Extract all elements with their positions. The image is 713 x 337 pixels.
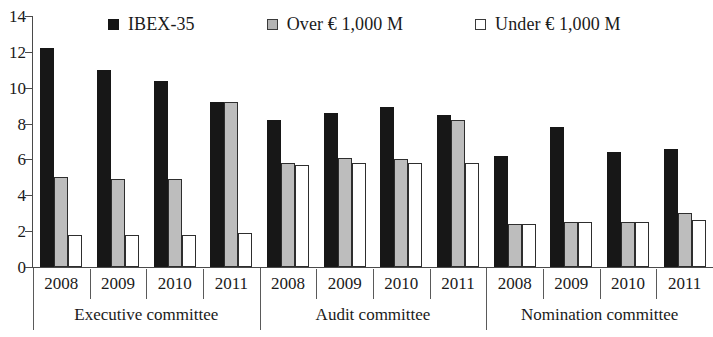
bar-ibex-35 bbox=[267, 120, 281, 267]
bar-under-1000m bbox=[125, 235, 139, 267]
y-tick-mark bbox=[25, 231, 33, 232]
year-separator bbox=[656, 269, 657, 299]
y-tick-mark bbox=[25, 124, 33, 125]
bar-group bbox=[316, 16, 373, 267]
y-tick-mark bbox=[25, 52, 33, 53]
bar-over-1000m bbox=[621, 222, 635, 267]
y-tick-mark bbox=[25, 16, 33, 17]
x-tick-label-year: 2010 bbox=[600, 268, 657, 300]
bar-under-1000m bbox=[295, 165, 309, 267]
y-tick-mark bbox=[25, 195, 33, 196]
bar-group bbox=[373, 16, 430, 267]
year-separator bbox=[316, 269, 317, 299]
y-tick-label: 14 bbox=[9, 8, 26, 25]
bar-group bbox=[146, 16, 203, 267]
bar-ibex-35 bbox=[210, 102, 224, 267]
bar-group bbox=[90, 16, 147, 267]
bar-under-1000m bbox=[465, 163, 479, 267]
plot-area: 02468101214 2008200920102011200820092010… bbox=[0, 0, 713, 337]
x-tick-label-year: 2008 bbox=[33, 268, 90, 300]
bar-ibex-35 bbox=[550, 127, 564, 267]
bar-group bbox=[33, 16, 90, 267]
bar-over-1000m bbox=[168, 179, 182, 267]
y-tick-label: 12 bbox=[9, 43, 26, 60]
bar-under-1000m bbox=[635, 222, 649, 267]
bar-over-1000m bbox=[564, 222, 578, 267]
y-tick-mark bbox=[25, 159, 33, 160]
year-separator bbox=[430, 269, 431, 299]
bar-group bbox=[600, 16, 657, 267]
x-tick-label-year: 2011 bbox=[203, 268, 260, 300]
bar-under-1000m bbox=[578, 222, 592, 267]
group-separator bbox=[33, 268, 34, 330]
x-axis-year-labels: 2008200920102011200820092010201120082009… bbox=[33, 268, 713, 300]
x-axis-group-label: Audit committee bbox=[260, 300, 487, 330]
bar-group bbox=[656, 16, 713, 267]
bar-over-1000m bbox=[451, 120, 465, 267]
y-tick-label: 10 bbox=[9, 79, 26, 96]
group-separator bbox=[486, 268, 487, 330]
year-separator bbox=[373, 269, 374, 299]
y-tick-mark bbox=[25, 88, 33, 89]
bar-ibex-35 bbox=[154, 81, 168, 267]
bar-group bbox=[203, 16, 260, 267]
bar-ibex-35 bbox=[607, 152, 621, 267]
bar-ibex-35 bbox=[380, 107, 394, 267]
x-tick-label-year: 2010 bbox=[146, 268, 203, 300]
bar-over-1000m bbox=[678, 213, 692, 267]
bar-over-1000m bbox=[281, 163, 295, 267]
x-tick-label-year: 2008 bbox=[260, 268, 317, 300]
bar-under-1000m bbox=[352, 163, 366, 267]
bar-group bbox=[486, 16, 543, 267]
x-tick-label-year: 2008 bbox=[486, 268, 543, 300]
bar-group bbox=[430, 16, 487, 267]
y-tick-mark bbox=[25, 267, 33, 268]
bar-under-1000m bbox=[522, 224, 536, 267]
x-axis-group-label: Nomination committee bbox=[486, 300, 713, 330]
x-tick-label-year: 2011 bbox=[430, 268, 487, 300]
x-axis-group-label: Executive committee bbox=[33, 300, 260, 330]
bar-ibex-35 bbox=[324, 113, 338, 267]
x-tick-label-year: 2009 bbox=[316, 268, 373, 300]
bar-under-1000m bbox=[408, 163, 422, 267]
bar-under-1000m bbox=[238, 233, 252, 267]
x-tick-label-year: 2009 bbox=[543, 268, 600, 300]
x-tick-label-year: 2009 bbox=[90, 268, 147, 300]
bar-ibex-35 bbox=[97, 70, 111, 267]
bar-over-1000m bbox=[338, 158, 352, 267]
bar-under-1000m bbox=[182, 235, 196, 267]
x-tick-label-year: 2011 bbox=[656, 268, 713, 300]
x-axis-group-labels: Executive committeeAudit committeeNomina… bbox=[33, 300, 713, 337]
year-separator bbox=[90, 269, 91, 299]
x-tick-label-year: 2010 bbox=[373, 268, 430, 300]
year-separator bbox=[203, 269, 204, 299]
bar-group bbox=[543, 16, 600, 267]
bar-ibex-35 bbox=[664, 149, 678, 267]
bars-container bbox=[33, 16, 713, 267]
y-axis-labels: 02468101214 bbox=[0, 16, 26, 267]
bar-over-1000m bbox=[394, 159, 408, 267]
bar-over-1000m bbox=[224, 102, 238, 267]
bar-group bbox=[260, 16, 317, 267]
bar-chart: IBEX-35 Over € 1,000 M Under € 1,000 M 0… bbox=[0, 0, 713, 337]
bar-over-1000m bbox=[54, 177, 68, 267]
bar-ibex-35 bbox=[494, 156, 508, 267]
bar-over-1000m bbox=[111, 179, 125, 267]
bar-under-1000m bbox=[692, 220, 706, 267]
group-separator bbox=[260, 268, 261, 330]
bar-under-1000m bbox=[68, 235, 82, 267]
bar-over-1000m bbox=[508, 224, 522, 267]
year-separator bbox=[600, 269, 601, 299]
year-separator bbox=[146, 269, 147, 299]
bar-ibex-35 bbox=[40, 48, 54, 267]
year-separator bbox=[543, 269, 544, 299]
bar-ibex-35 bbox=[437, 115, 451, 267]
